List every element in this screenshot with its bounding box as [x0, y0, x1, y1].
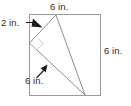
- geometry-figure: 6 in. 6 in. 2 in. 6 in.: [0, 0, 131, 106]
- right-angle-marker-icon: [30, 37, 43, 50]
- left-offset-length-label: 2 in.: [1, 18, 19, 28]
- left-leader-arrow-icon: [26, 19, 43, 28]
- top-side-length-label: 6 in.: [50, 2, 68, 12]
- triangle-side-length-label: 6 in.: [25, 76, 43, 86]
- right-side-length-label: 6 in.: [104, 46, 122, 56]
